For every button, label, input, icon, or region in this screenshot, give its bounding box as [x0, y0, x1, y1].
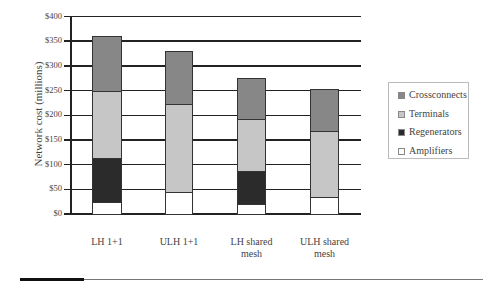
- y-tick-label: $0: [22, 208, 62, 218]
- legend-label: Crossconnects: [409, 89, 467, 100]
- bar-segment-regenerators: [237, 171, 266, 205]
- y-tick-label: $300: [22, 60, 62, 70]
- y-tick-label: $200: [22, 109, 62, 119]
- legend-swatch-crossconnects: [398, 92, 405, 99]
- y-axis-line: [70, 16, 72, 215]
- legend-label: Regenerators: [409, 126, 462, 137]
- legend-item-regenerators: Regenerators: [398, 126, 462, 138]
- bar-segment-amplifiers: [310, 197, 339, 215]
- bar-segment-amplifiers: [237, 204, 266, 215]
- bar-segment-crossconnects: [310, 89, 339, 132]
- bar-segment-crossconnects: [237, 78, 266, 120]
- legend: Crossconnects Terminals Regenerators Amp…: [388, 82, 469, 159]
- y-tick-label: $400: [22, 11, 62, 21]
- legend-label: Amplifiers: [409, 145, 452, 156]
- legend-swatch-regenerators: [398, 129, 405, 136]
- stacked-bar-chart: Network cost (millions) $0$50$100$150$20…: [0, 0, 490, 282]
- legend-item-crossconnects: Crossconnects: [398, 89, 467, 101]
- bar-segment-crossconnects: [92, 36, 122, 91]
- legend-label: Terminals: [409, 108, 449, 119]
- x-tick-label: ULH sharedmesh: [290, 236, 360, 260]
- x-tick-label: LH sharedmesh: [217, 236, 287, 260]
- bar-segment-terminals: [165, 104, 193, 193]
- legend-swatch-terminals: [398, 111, 405, 118]
- bottom-rule: [20, 279, 483, 280]
- bar-segment-crossconnects: [165, 51, 193, 105]
- bar-segment-terminals: [92, 91, 122, 160]
- x-tick-label: LH 1+1: [72, 236, 142, 248]
- bar-segment-amplifiers: [165, 192, 193, 215]
- bar-segment-terminals: [310, 131, 339, 198]
- legend-item-terminals: Terminals: [398, 108, 449, 120]
- bar-segment-terminals: [237, 119, 266, 172]
- y-tick-label: $350: [22, 35, 62, 45]
- legend-swatch-amplifiers: [398, 148, 405, 155]
- y-tick-label: $150: [22, 134, 62, 144]
- bar-segment-regenerators: [92, 158, 122, 202]
- legend-item-amplifiers: Amplifiers: [398, 145, 452, 157]
- bar-segment-amplifiers: [92, 202, 122, 215]
- bottom-rule-accent: [20, 278, 84, 281]
- y-tick-label: $100: [22, 159, 62, 169]
- y-tick-label: $50: [22, 183, 62, 193]
- y-tick-label: $250: [22, 85, 62, 95]
- x-tick-label: ULH 1+1: [144, 236, 214, 248]
